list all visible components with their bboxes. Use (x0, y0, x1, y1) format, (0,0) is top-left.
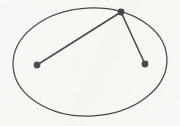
figure-canvas: Ellipse with two chords from a common bo… (0, 0, 180, 126)
left-point (34, 62, 41, 69)
right-point (142, 61, 149, 68)
vertex-top-point (118, 9, 125, 16)
geometry-figure: Ellipse with two chords from a common bo… (0, 0, 180, 126)
segment-long (37, 12, 121, 65)
